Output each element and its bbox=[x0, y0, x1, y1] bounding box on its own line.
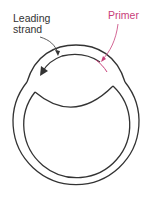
primer-segment bbox=[96, 60, 107, 72]
inner-circle bbox=[24, 86, 130, 178]
cavity-arc bbox=[35, 86, 113, 107]
primer-leader-line bbox=[102, 24, 118, 60]
replication-bubble-diagram bbox=[0, 0, 151, 199]
arrowhead-icon bbox=[40, 66, 48, 76]
leading-strand-arc bbox=[43, 54, 100, 71]
outer-bubble-arc bbox=[27, 45, 125, 82]
